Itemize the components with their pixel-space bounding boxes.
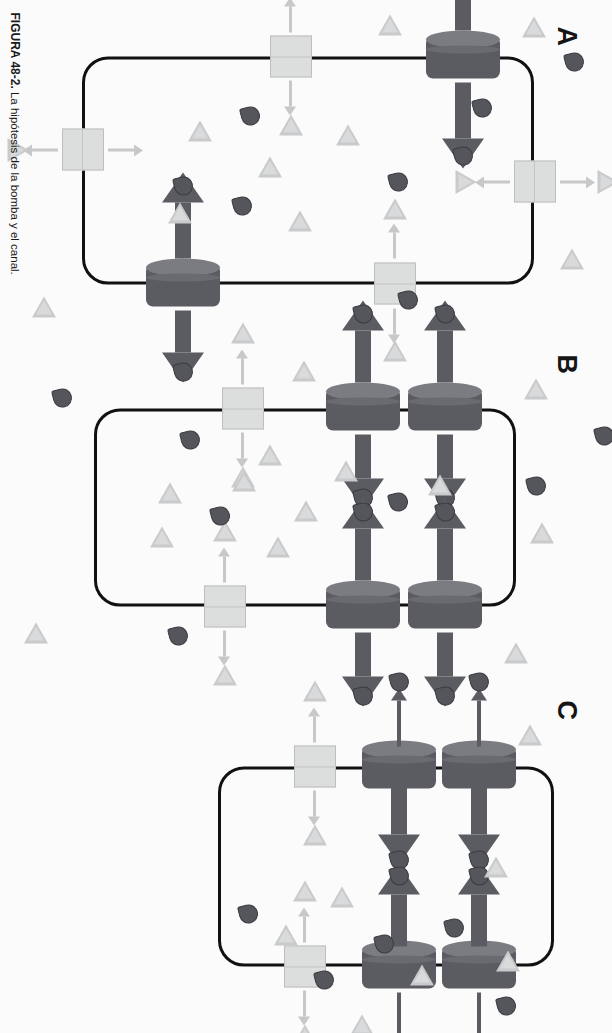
pump-arrow-out-left — [355, 330, 371, 382]
channel-arrow-left — [241, 358, 244, 384]
figure-caption-text: La hipótesis de la bomba y el canal. — [9, 91, 21, 274]
channel-split — [270, 56, 312, 57]
panel-a-label: A — [551, 26, 582, 46]
channel-split — [204, 606, 246, 607]
channel-arrow-left — [313, 716, 316, 742]
pump-arrow-out-left — [437, 528, 453, 580]
ion-light-triangle — [518, 724, 542, 745]
pump-capline — [442, 755, 516, 763]
ion-light-triangle — [334, 460, 358, 481]
ion-light-triangle — [266, 536, 290, 557]
ion-dark-particle — [563, 50, 586, 73]
ion-light-triangle — [158, 482, 182, 503]
ion-light-triangle — [484, 856, 508, 877]
channel-arrow-up — [108, 148, 134, 151]
ion-light-triangle — [560, 248, 584, 269]
channel-arrow-right — [313, 790, 316, 816]
figure-canvas: A — [0, 0, 612, 1033]
panel-b-label: B — [551, 354, 582, 374]
ion-light-triangle — [294, 500, 318, 521]
pump-arrow-major-right — [391, 782, 407, 834]
pump-arrow-minor-right — [397, 992, 401, 1033]
pump-arrow-minor-right — [477, 992, 481, 1033]
panel-a: A — [0, 0, 612, 330]
channel-split — [374, 283, 416, 284]
ion-light-triangle — [383, 198, 407, 219]
channel-arrow-left — [393, 232, 396, 258]
ion-light-triangle — [303, 824, 327, 845]
ion-dark-particle — [593, 424, 612, 447]
pump-arrow-major-left — [471, 894, 487, 946]
pump-capline — [408, 595, 482, 603]
ion-light-triangle — [303, 680, 327, 701]
channel-arrow-right — [241, 432, 244, 458]
ion-light-triangle — [279, 114, 303, 135]
ion-light-triangle — [598, 170, 612, 194]
pump-arrow-out-right — [455, 82, 471, 138]
channel-split — [284, 966, 326, 967]
pump-capline — [408, 397, 482, 405]
channel-arrow-right — [223, 630, 226, 656]
ion-light-triangle — [504, 642, 528, 663]
ion-light-triangle — [428, 474, 452, 495]
ion-dark-particle — [51, 386, 74, 409]
ion-light-triangle — [378, 14, 402, 35]
figure-caption: FIGURA 48-2. La hipótesis de la bomba y … — [6, 12, 23, 1022]
ion-light-triangle — [288, 210, 312, 231]
channel-arrow-right — [303, 990, 306, 1016]
ion-light-triangle — [330, 886, 354, 907]
channel-split — [294, 766, 336, 767]
figure-caption-id: FIGURA 48-2. — [8, 12, 22, 88]
ion-dark-particle — [167, 624, 190, 647]
pump-arrow-major-right — [471, 782, 487, 834]
ion-light-triangle — [456, 170, 477, 194]
channel-box — [62, 128, 104, 170]
pump-capline — [426, 45, 500, 53]
channel-arrow-left — [303, 916, 306, 942]
ion-light-triangle — [496, 950, 520, 971]
pump-arrow-minor-left — [397, 700, 401, 746]
pump-arrow-out-right — [437, 632, 453, 676]
channel-split — [534, 160, 535, 202]
pump-capline — [362, 955, 436, 963]
channel-box — [514, 160, 556, 202]
channel-arrow-down — [32, 148, 58, 151]
pump-arrow-out-left — [355, 528, 371, 580]
pump-capline — [326, 595, 400, 603]
ion-light-triangle — [24, 622, 48, 643]
pump-capline — [146, 273, 220, 281]
ion-light-triangle — [524, 378, 548, 399]
pump-arrow-out-right — [437, 434, 453, 478]
ion-light-triangle — [522, 16, 546, 37]
pump-arrow-out-left — [455, 0, 471, 30]
ion-light-triangle — [336, 124, 360, 145]
ion-light-triangle — [232, 470, 256, 491]
ion-light-triangle — [274, 924, 298, 945]
ion-light-triangle — [410, 964, 434, 985]
panel-b: B — [0, 330, 612, 678]
pump-capline — [362, 755, 436, 763]
channel-arrow-left — [223, 556, 226, 582]
channel-split — [222, 408, 264, 409]
channel-arrow-left — [289, 6, 292, 32]
ion-light-triangle — [231, 322, 255, 343]
ion-light-triangle — [188, 120, 212, 141]
ion-light-triangle — [168, 202, 192, 223]
channel-arrow-right — [289, 80, 292, 106]
panel-c: C — [0, 678, 612, 1033]
channel-arrow-up — [560, 180, 586, 183]
ion-light-triangle — [292, 360, 316, 381]
ion-dark-particle — [397, 288, 420, 311]
ion-light-triangle — [150, 526, 174, 547]
ion-light-triangle — [258, 156, 282, 177]
ion-dark-particle — [525, 474, 548, 497]
ion-light-triangle — [530, 522, 554, 543]
panel-c-label: C — [551, 700, 582, 720]
ion-dark-particle — [495, 994, 518, 1017]
ion-light-triangle — [32, 296, 56, 317]
channel-arrow-down — [484, 180, 510, 183]
ion-light-triangle — [293, 880, 317, 901]
pump-arrow-out-left — [437, 330, 453, 382]
ion-light-triangle — [258, 444, 282, 465]
pump-arrow-major-left — [391, 894, 407, 946]
